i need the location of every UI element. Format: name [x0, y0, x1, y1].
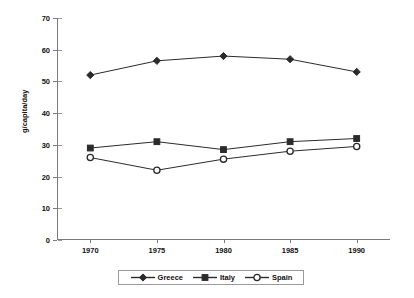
data-point-marker [87, 71, 94, 78]
legend-marker-filled-square-icon [192, 272, 218, 283]
y-axis-title: g/capita/day [20, 90, 29, 133]
legend-marker-filled-diamond-icon [130, 272, 156, 283]
data-point-marker [220, 52, 227, 59]
y-tick-label: 0 [46, 236, 50, 245]
legend-item-italy[interactable]: Italy [192, 272, 235, 283]
data-point-marker [221, 147, 227, 153]
data-point-marker [287, 56, 294, 63]
legend-label: Italy [220, 273, 235, 282]
legend-label: Spain [272, 273, 292, 282]
series-italy [87, 136, 359, 153]
data-point-marker [287, 148, 293, 154]
x-tick-label: 1985 [282, 246, 299, 255]
y-tick-label: 50 [42, 77, 50, 86]
data-point-marker [354, 143, 360, 149]
y-tick-mark-inner [58, 240, 62, 241]
data-point-marker [154, 167, 160, 173]
data-point-marker [353, 68, 360, 75]
x-tick-label: 1980 [215, 246, 232, 255]
data-point-marker [354, 136, 360, 142]
data-point-marker [287, 139, 293, 145]
chart-legend: GreeceItalySpain [118, 270, 304, 285]
data-point-marker [154, 139, 160, 145]
series-layer [57, 18, 390, 240]
x-tick-label: 1975 [149, 246, 166, 255]
x-tick-label: 1970 [82, 246, 99, 255]
data-point-marker [153, 57, 160, 64]
y-tick-label: 40 [42, 109, 50, 118]
legend-item-spain[interactable]: Spain [244, 272, 292, 283]
legend-label: Greece [158, 273, 183, 282]
y-tick-mark [53, 240, 57, 241]
y-tick-label: 70 [42, 14, 50, 23]
y-tick-label: 10 [42, 204, 50, 213]
y-tick-label: 60 [42, 45, 50, 54]
series-greece [87, 52, 361, 78]
legend-marker-open-circle-icon [244, 272, 270, 283]
line-chart: g/capita/day 010203040506070 19701975198… [0, 0, 414, 298]
x-tick-label: 1990 [348, 246, 365, 255]
data-point-marker [87, 154, 93, 160]
legend-item-greece[interactable]: Greece [130, 272, 183, 283]
data-point-marker [220, 156, 226, 162]
plot-area: 010203040506070 19701975198019851990 [57, 18, 390, 240]
y-tick-label: 30 [42, 140, 50, 149]
y-tick-label: 20 [42, 172, 50, 181]
data-point-marker [87, 145, 93, 151]
